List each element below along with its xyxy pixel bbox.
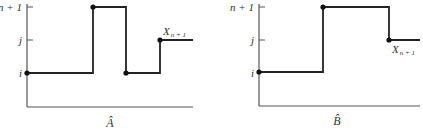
point <box>386 37 391 42</box>
point <box>157 37 162 42</box>
x-n1-label: Xn + 1 <box>391 43 415 57</box>
step-path <box>27 7 193 73</box>
point <box>123 70 128 75</box>
tick-label-i: i <box>19 67 22 79</box>
point <box>24 70 29 75</box>
caption-a: Â <box>105 116 114 130</box>
x-n1-label: Xn + 1 <box>162 25 186 39</box>
tick-label-n1: n + 1 <box>0 1 22 13</box>
tick-label-j: j <box>17 34 22 46</box>
tick-label-i: i <box>251 67 254 79</box>
caption-b: B̂ <box>333 114 341 128</box>
point <box>90 4 95 9</box>
diagram-canvas: n + 1 j i Xn + 1 Â n + 1 j i Xn + 1 B̂ <box>0 0 423 131</box>
tick-label-n1: n + 1 <box>230 1 254 13</box>
point <box>320 4 325 9</box>
panel-b: n + 1 j i Xn + 1 B̂ <box>230 1 420 128</box>
tick-label-j: j <box>249 34 254 46</box>
panel-a: n + 1 j i Xn + 1 Â <box>0 1 193 130</box>
point <box>256 69 261 74</box>
step-path <box>259 7 420 72</box>
